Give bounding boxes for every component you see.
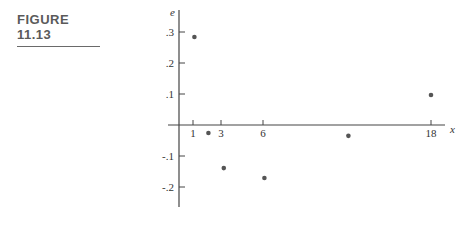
x-axis-label: x xyxy=(449,123,455,135)
x-tick-label: 6 xyxy=(260,127,266,139)
scatter-plot: ex.3.2.1-.1-.213618 xyxy=(0,0,471,227)
axes: ex.3.2.1-.1-.213618 xyxy=(162,6,455,207)
y-tick-label: .3 xyxy=(166,26,175,38)
y-tick-label: .2 xyxy=(166,57,174,69)
data-point xyxy=(346,134,351,139)
y-tick-label: -.1 xyxy=(162,150,174,162)
x-tick-label: 3 xyxy=(218,127,224,139)
y-axis-label: e xyxy=(170,6,175,18)
data-point xyxy=(192,35,197,40)
data-point xyxy=(206,131,211,136)
data-point xyxy=(222,166,227,171)
data-point xyxy=(429,93,434,98)
data-points xyxy=(192,35,433,181)
data-point xyxy=(262,176,267,181)
y-tick-label: -.2 xyxy=(162,181,174,193)
x-tick-label: 1 xyxy=(190,127,196,139)
x-tick-label: 18 xyxy=(426,127,438,139)
y-tick-label: .1 xyxy=(166,88,174,100)
